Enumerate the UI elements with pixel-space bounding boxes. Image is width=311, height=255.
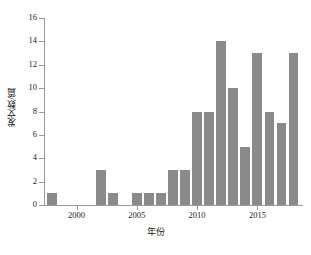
x-axis-title-text: 年份 [147,227,165,237]
bar [96,170,106,205]
y-axis-tick-label: 6 [13,130,37,139]
y-axis-tick-label: 16 [13,13,37,22]
y-axis-tick-label: 14 [13,36,37,45]
bar [228,88,238,205]
y-axis-tick-label: 0 [13,200,37,209]
y-axis-tick-label: 8 [13,107,37,116]
x-axis-tick-label: 2005 [117,211,157,220]
bar [277,123,287,205]
bar [240,147,250,205]
plot-area [44,18,302,205]
bar [168,170,178,205]
x-axis-tick-label: 2015 [237,211,277,220]
y-axis-tick-label: 10 [13,83,37,92]
bar [144,193,154,205]
bar [204,112,214,206]
y-axis-tick-label: 2 [13,177,37,186]
bar [216,41,226,205]
y-axis-tick [39,205,44,206]
bar [289,53,299,205]
bar [265,112,275,206]
x-axis-title: 年份 [0,228,311,237]
bar-chart: 发文数/篇 0246810121416 2000200520102015 年份 [0,0,311,255]
bar [156,193,166,205]
x-axis-tick-label: 2010 [177,211,217,220]
bar [108,193,118,205]
bar [192,112,202,206]
bar [252,53,262,205]
x-axis-tick-label: 2000 [57,211,97,220]
bar [47,193,57,205]
x-axis-line [44,205,303,206]
y-axis-tick-label: 4 [13,153,37,162]
y-axis-tick-label: 12 [13,60,37,69]
bar [180,170,190,205]
bar [132,193,142,205]
